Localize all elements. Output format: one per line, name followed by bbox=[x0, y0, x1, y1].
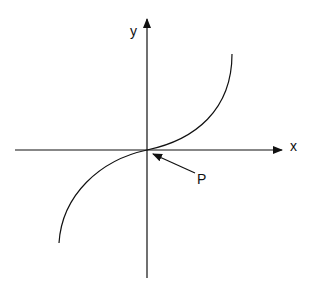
point-p-arrow bbox=[153, 154, 195, 173]
graph-canvas bbox=[0, 0, 312, 291]
y-axis-label: y bbox=[130, 24, 137, 38]
point-p-label: P bbox=[197, 172, 206, 186]
curve bbox=[59, 54, 232, 243]
x-axis-label: x bbox=[290, 139, 297, 153]
